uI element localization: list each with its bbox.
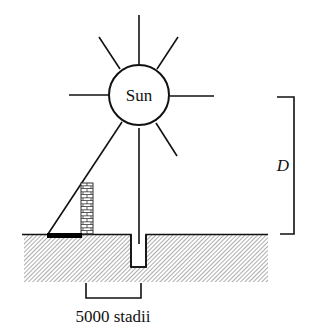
brick-wall (81, 183, 93, 234)
ray-top-right (157, 37, 178, 69)
shadow (47, 233, 82, 238)
diagram-canvas: Sun D 5000 stadii (0, 0, 314, 332)
sun-rays (48, 15, 214, 244)
ray-top-left (99, 37, 120, 69)
baseline-label: 5000 stadii (75, 307, 150, 326)
distance-label: D (276, 156, 290, 175)
sun-label: Sun (126, 86, 153, 105)
ray-bottom-right (156, 123, 177, 156)
baseline-bracket (86, 283, 141, 298)
sun: Sun (109, 65, 169, 125)
